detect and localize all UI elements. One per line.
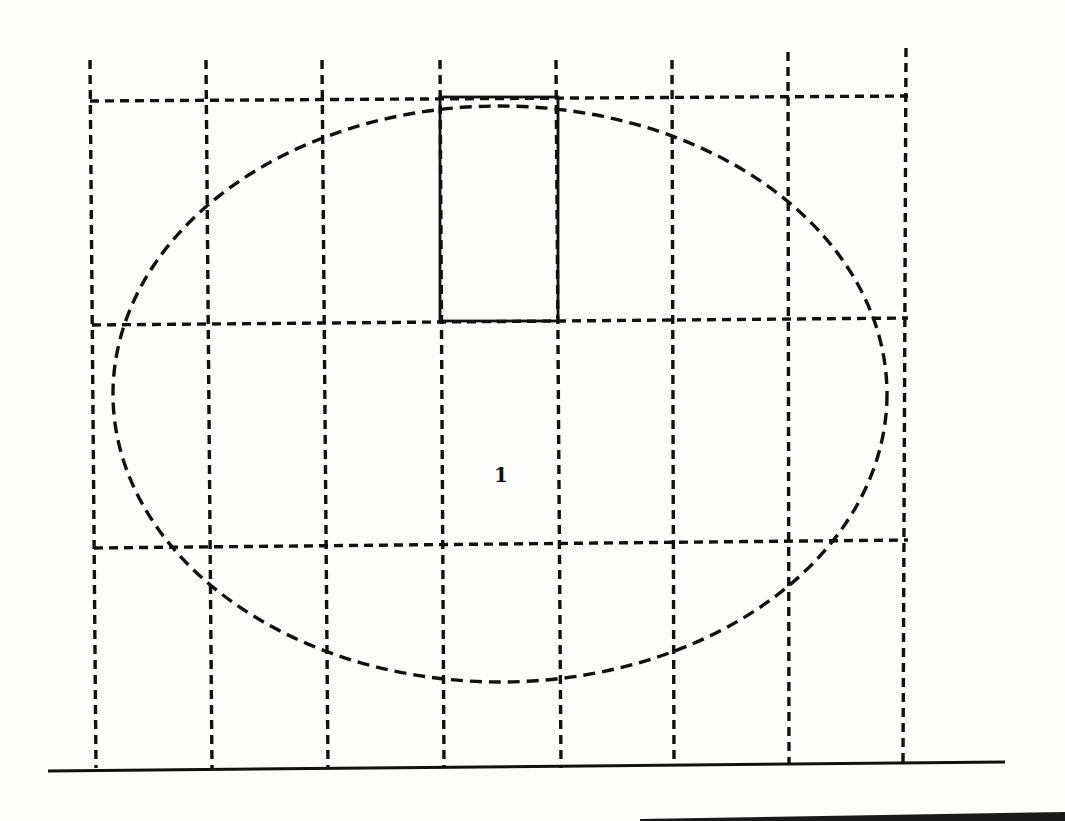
vertical-grid-line [322, 60, 328, 768]
highlighted-cell [440, 97, 558, 321]
vertical-grid-line [90, 60, 96, 768]
vertical-grid-lines [90, 48, 906, 768]
grid-ellipse-figure: 1 [0, 0, 1065, 821]
horizontal-grid-line [94, 540, 908, 548]
vertical-grid-line [788, 52, 789, 765]
vertical-grid-line [903, 48, 906, 764]
diagram: 1 [0, 0, 1065, 821]
region-label: 1 [494, 463, 508, 487]
ellipse-outline [113, 106, 887, 682]
vertical-grid-line [672, 60, 674, 766]
vertical-grid-line [206, 60, 212, 768]
scan-edge-strip [640, 812, 1065, 821]
ground-line [48, 762, 1005, 771]
